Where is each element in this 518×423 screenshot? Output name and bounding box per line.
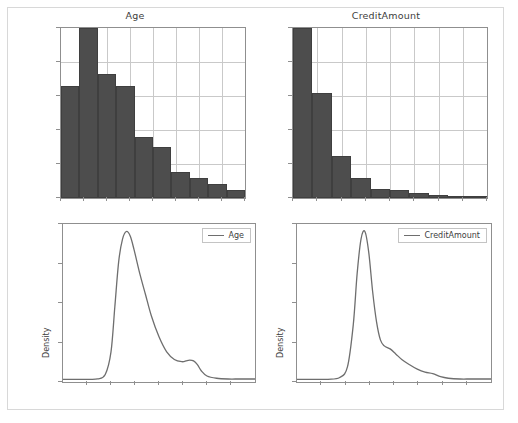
legend-line-swatch-age <box>208 235 224 236</box>
histogram-bar <box>371 189 390 198</box>
y-axis-tick <box>292 302 296 303</box>
y-axis-tick <box>56 27 60 28</box>
x-axis-tick <box>206 381 207 385</box>
x-axis-tick <box>152 197 153 201</box>
x-axis-tick <box>320 381 321 385</box>
y-axis-tick <box>288 163 292 164</box>
histogram-bars <box>293 28 487 198</box>
hist-age-axes <box>60 27 246 199</box>
x-axis-tick <box>129 197 130 201</box>
x-axis-tick <box>369 381 370 385</box>
density-curve <box>297 224 491 382</box>
x-axis-tick <box>198 197 199 201</box>
x-axis-tick <box>175 197 176 201</box>
histogram-bar <box>153 147 171 198</box>
kde-age-axes: Age <box>62 223 256 383</box>
x-axis-tick <box>110 381 111 385</box>
kde-credit-legend: CreditAmount <box>398 228 488 243</box>
histogram-bar <box>61 86 79 198</box>
density-curve-path <box>297 231 491 380</box>
y-axis-tick <box>288 129 292 130</box>
histogram-bar <box>79 28 97 198</box>
kde-credit-axes: CreditAmount <box>296 223 492 383</box>
histogram-bar <box>190 178 208 198</box>
x-axis-tick <box>417 381 418 385</box>
x-axis-tick <box>393 381 394 385</box>
kde-age-legend: Age <box>202 228 251 243</box>
x-axis-tick <box>106 197 107 201</box>
y-axis-tick <box>58 302 62 303</box>
y-axis-tick <box>58 342 62 343</box>
y-axis-tick <box>288 27 292 28</box>
density-curve <box>63 224 255 382</box>
panel-hist-age: Age <box>20 10 250 205</box>
x-axis-tick <box>316 197 317 201</box>
y-axis-tick <box>58 263 62 264</box>
x-axis-tick <box>134 381 135 385</box>
legend-label-credit: CreditAmount <box>425 231 481 240</box>
x-axis-tick <box>466 381 467 385</box>
y-axis-tick <box>56 163 60 164</box>
histogram-bar <box>390 190 409 198</box>
x-axis-tick <box>345 381 346 385</box>
kde-credit-ylabel: Density <box>276 328 285 358</box>
x-axis-tick <box>244 197 245 201</box>
x-axis-tick <box>341 197 342 201</box>
panel-kde-age: Density Age <box>20 218 270 403</box>
y-axis-tick <box>292 381 296 382</box>
histogram-bar <box>135 137 153 198</box>
x-axis-tick <box>365 197 366 201</box>
y-axis-tick <box>288 197 292 198</box>
figure-canvas: Age CreditAmount Density Age Density Cre… <box>0 0 518 423</box>
x-axis-tick <box>60 197 61 201</box>
x-axis-tick <box>292 197 293 201</box>
x-axis-tick <box>413 197 414 201</box>
x-axis-tick <box>158 381 159 385</box>
x-axis-tick <box>221 197 222 201</box>
y-axis-tick <box>288 95 292 96</box>
histogram-bar <box>98 74 116 198</box>
density-curve-path <box>63 231 255 379</box>
legend-line-swatch-credit <box>404 235 420 236</box>
histogram-bar <box>351 178 370 198</box>
histogram-bar <box>332 156 351 199</box>
histogram-bar <box>312 93 331 198</box>
panel-hist-credit: CreditAmount <box>268 10 504 205</box>
y-axis-tick <box>58 223 62 224</box>
y-axis-tick <box>56 197 60 198</box>
histogram-bar <box>468 196 487 198</box>
x-axis-tick <box>230 381 231 385</box>
x-axis-tick <box>438 197 439 201</box>
y-axis-tick <box>58 381 62 382</box>
histogram-bar <box>208 184 226 198</box>
hist-credit-title: CreditAmount <box>268 10 504 21</box>
x-axis-tick <box>462 197 463 201</box>
y-axis-tick <box>56 129 60 130</box>
histogram-bar <box>227 190 245 198</box>
histogram-bar <box>116 86 134 198</box>
y-axis-tick <box>288 61 292 62</box>
panel-kde-credit: Density CreditAmount <box>268 218 504 403</box>
y-axis-tick <box>292 342 296 343</box>
x-axis-tick <box>486 197 487 201</box>
x-axis-tick <box>182 381 183 385</box>
y-axis-tick <box>56 95 60 96</box>
histogram-bars <box>61 28 245 198</box>
histogram-bar <box>448 196 467 198</box>
kde-age-ylabel: Density <box>42 328 51 358</box>
y-axis-tick <box>56 61 60 62</box>
y-axis-tick <box>292 223 296 224</box>
x-axis-tick <box>86 381 87 385</box>
hist-credit-axes <box>292 27 488 199</box>
histogram-bar <box>171 172 189 198</box>
x-axis-tick <box>442 381 443 385</box>
hist-age-title: Age <box>20 10 250 21</box>
histogram-bar <box>293 28 312 198</box>
x-axis-tick <box>389 197 390 201</box>
legend-label-age: Age <box>229 231 244 240</box>
x-axis-tick <box>83 197 84 201</box>
y-axis-tick <box>292 263 296 264</box>
